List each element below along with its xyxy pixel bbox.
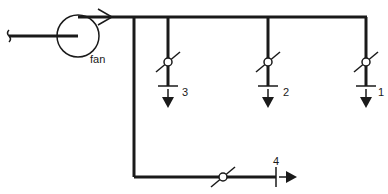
outlet-arrow-1-icon	[360, 89, 372, 108]
outlet-arrow-3-icon	[162, 89, 174, 108]
duct-diagram: fan 3 2 1 4	[0, 0, 388, 194]
fan-label: fan	[90, 53, 105, 65]
outlet-label-2: 2	[283, 86, 289, 98]
outlet-label-4: 4	[273, 155, 279, 167]
outlet-arrow-2-icon	[262, 89, 274, 108]
outlet-label-1: 1	[378, 86, 384, 98]
outlet-arrow-4-icon	[279, 171, 297, 183]
outlet-label-3: 3	[182, 86, 188, 98]
